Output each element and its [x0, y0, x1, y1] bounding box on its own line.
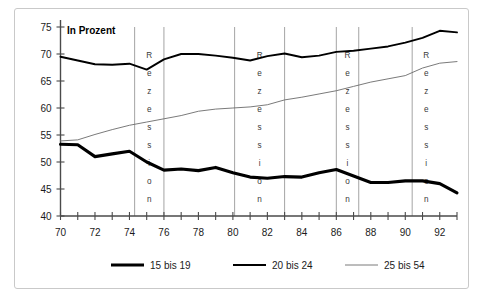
recession-label-letter: e — [424, 105, 429, 114]
recession-label-letter: e — [345, 69, 350, 78]
legend-label-0: 15 bis 19 — [150, 260, 191, 271]
recession-label-letter: s — [345, 123, 349, 132]
axis-labels: 4045505560657075707274767880828486889092 — [40, 22, 445, 238]
y-axis-tick-label: 50 — [40, 157, 52, 168]
recession-label-letter: e — [147, 105, 152, 114]
y-axis-tick-label: 60 — [40, 103, 52, 114]
recession-label-letter: o — [147, 177, 152, 186]
recession-label-letter: e — [147, 69, 152, 78]
recession-label-letter: z — [424, 87, 428, 96]
y-axis-tick-label: 45 — [40, 184, 52, 195]
legend-label-1: 20 bis 24 — [272, 260, 313, 271]
y-axis-tick-label: 75 — [40, 22, 52, 33]
recession-label-letter: z — [147, 87, 151, 96]
x-axis-tick-label: 74 — [124, 227, 136, 238]
x-axis-tick-label: 82 — [262, 227, 274, 238]
x-axis-tick-label: 84 — [296, 227, 308, 238]
axes-group — [57, 20, 458, 220]
x-axis-tick-label: 70 — [55, 227, 67, 238]
recession-label-letter: i — [259, 159, 261, 168]
y-axis-tick-label: 40 — [40, 211, 52, 222]
recession-label-letter: R — [345, 51, 351, 60]
recession-label-letter: n — [257, 195, 262, 204]
recession-label-letter: e — [257, 69, 262, 78]
recession-label-letter: e — [345, 105, 350, 114]
x-axis-tick-label: 76 — [158, 227, 170, 238]
recession-label-letter: R — [423, 51, 429, 60]
chart-figure: RezessionRezessionRezessionRezession 404… — [14, 8, 469, 289]
chart-canvas: RezessionRezessionRezessionRezession 404… — [15, 9, 470, 290]
x-axis-tick-label: 86 — [331, 227, 343, 238]
x-axis-tick-label: 78 — [193, 227, 205, 238]
recession-label-letter: n — [345, 195, 350, 204]
recession-label-letter: i — [347, 159, 349, 168]
recession-label-letter: o — [345, 177, 350, 186]
recession-label-letter: e — [424, 69, 429, 78]
recession-label-letter: R — [146, 51, 152, 60]
x-axis-tick-label: 80 — [227, 227, 239, 238]
y-axis-tick-label: 70 — [40, 49, 52, 60]
recession-label-letter: s — [424, 141, 428, 150]
legend: 15 bis 1920 bis 2425 bis 54 — [111, 260, 425, 271]
units-annotation: In Prozent — [67, 25, 116, 36]
legend-label-2: 25 bis 54 — [384, 260, 425, 271]
y-axis-tick-label: 65 — [40, 76, 52, 87]
y-axis-tick-label: 55 — [40, 130, 52, 141]
recession-label-letter: s — [147, 123, 151, 132]
recession-label-letter: s — [424, 123, 428, 132]
recession-label-letter: s — [345, 141, 349, 150]
x-axis-tick-label: 92 — [434, 227, 446, 238]
recession-label-letter: n — [147, 195, 152, 204]
x-axis-tick-label: 90 — [400, 227, 412, 238]
recession-label-letter: z — [258, 87, 262, 96]
recession-label-letter: s — [258, 141, 262, 150]
recession-label-letter: i — [425, 159, 427, 168]
x-axis-tick-label: 88 — [365, 227, 377, 238]
recession-label-letter: s — [258, 123, 262, 132]
x-axis-tick-label: 72 — [89, 227, 101, 238]
recession-label-letter: n — [424, 195, 429, 204]
recession-label-letter: s — [147, 141, 151, 150]
